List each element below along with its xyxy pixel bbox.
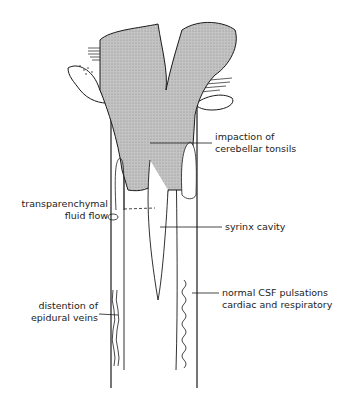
label-line: transparenchymal <box>8 198 108 210</box>
label-syrinx: syrinx cavity <box>225 221 285 233</box>
label-line: distention of <box>0 300 98 312</box>
label-transparenchymal: transparenchymal fluid flow <box>8 198 108 222</box>
diagram-canvas: impaction of cerebellar tonsils transpar… <box>0 0 346 398</box>
label-line: cardiac and respiratory <box>222 299 332 311</box>
label-line: syrinx cavity <box>225 221 285 233</box>
label-epidural: distention of epidural veins <box>0 300 98 324</box>
label-csf: normal CSF pulsations cardiac and respir… <box>222 287 332 311</box>
label-line: cerebellar tonsils <box>215 143 296 155</box>
label-line: fluid flow <box>8 210 108 222</box>
label-line: impaction of <box>215 131 296 143</box>
label-line: normal CSF pulsations <box>222 287 332 299</box>
label-impaction: impaction of cerebellar tonsils <box>215 131 296 155</box>
label-line: epidural veins <box>0 312 98 324</box>
